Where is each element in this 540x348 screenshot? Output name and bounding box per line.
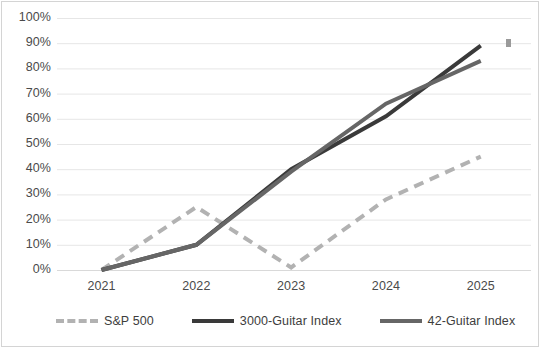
- legend-label-3000-guitar-index: 3000-Guitar Index: [240, 314, 342, 328]
- legend-item-42-guitar-index[interactable]: 42-Guitar Index: [380, 314, 516, 328]
- y-tick-label-30pct: 30%: [7, 186, 51, 200]
- y-tick-label-0pct: 0%: [7, 262, 51, 276]
- legend-swatch-42-guitar-index-icon: [380, 319, 422, 323]
- y-tick-label-40pct: 40%: [7, 161, 51, 175]
- chart-legend: S&P 500 3000-Guitar Index 42-Guitar Inde…: [56, 308, 510, 334]
- x-tick-label-2023: 2023: [261, 279, 321, 293]
- legend-label-42-guitar-index: 42-Guitar Index: [428, 314, 516, 328]
- y-tick-label-60pct: 60%: [7, 111, 51, 125]
- y-tick-label-50pct: 50%: [7, 136, 51, 150]
- y-tick-label-80pct: 80%: [7, 60, 51, 74]
- y-tick-label-20pct: 20%: [7, 212, 51, 226]
- legend-item-sp-500[interactable]: S&P 500: [56, 314, 154, 328]
- plot-area: [0, 0, 540, 348]
- legend-swatch-3000-guitar-index-icon: [192, 319, 234, 323]
- series-line-42-guitar-index: [102, 61, 481, 270]
- legend-item-3000-guitar-index[interactable]: 3000-Guitar Index: [192, 314, 342, 328]
- gridlines: [57, 19, 531, 271]
- x-tick-label-2025: 2025: [451, 279, 511, 293]
- y-tick-label-10pct: 10%: [7, 237, 51, 251]
- chart-container: 0%10%20%30%40%50%60%70%80%90%100% 202120…: [0, 0, 540, 348]
- x-tick-label-2021: 2021: [72, 279, 132, 293]
- x-tick-label-2022: 2022: [166, 279, 226, 293]
- y-tick-label-70pct: 70%: [7, 86, 51, 100]
- legend-label-sp-500: S&P 500: [104, 314, 154, 328]
- y-tick-label-100pct: 100%: [7, 10, 51, 24]
- legend-swatch-sp-500-icon: [56, 319, 98, 323]
- stray-data-marker: [506, 39, 511, 47]
- series-line-3000-guitar-index: [102, 46, 481, 270]
- x-tick-label-2024: 2024: [356, 279, 416, 293]
- series-lines: [102, 46, 481, 270]
- y-tick-label-90pct: 90%: [7, 35, 51, 49]
